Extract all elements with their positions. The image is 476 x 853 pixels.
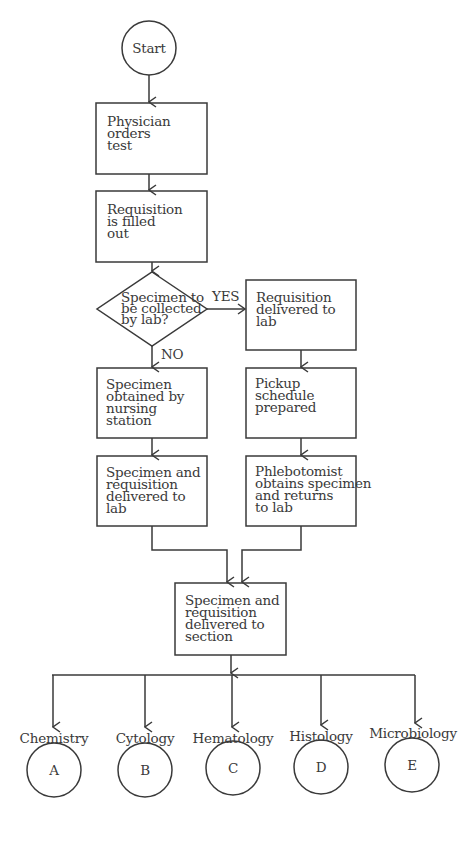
phlebotomist-text: Phlebotomist obtains specimen and return… — [255, 465, 371, 513]
merge-line-left — [152, 526, 227, 582]
physician-orders-text: Physician orders test — [107, 115, 170, 151]
section-label-histology: Histology — [281, 730, 361, 742]
section-label-chemistry: Chemistry — [14, 732, 94, 744]
section-letter-e: E — [392, 759, 432, 771]
decision-text: Specimen to be collected by lab? — [121, 292, 204, 325]
section-label-microbiology: Microbiology — [366, 727, 460, 739]
requisition-filled-text: Requisition is filled out — [107, 203, 182, 239]
requisition-delivered-text: Requisition delivered to lab — [256, 291, 335, 327]
to-section-text: Specimen and requisition delivered to se… — [185, 594, 280, 642]
pickup-schedule-text: Pickup schedule prepared — [255, 377, 316, 413]
section-label-hematology: Hematology — [190, 732, 276, 744]
nursing-delivered-text: Specimen and requisition delivered to la… — [106, 466, 201, 514]
section-letter-c: C — [213, 762, 253, 774]
section-letter-b: B — [125, 764, 165, 776]
start-label: Start — [122, 42, 176, 54]
nursing-obtained-text: Specimen obtained by nursing station — [106, 378, 184, 426]
section-letter-a: A — [34, 764, 74, 776]
section-label-cytology: Cytology — [105, 732, 185, 744]
merge-line-right — [242, 526, 301, 582]
no-label: NO — [161, 348, 183, 360]
section-letter-d: D — [301, 761, 341, 773]
yes-label: YES — [212, 290, 239, 302]
